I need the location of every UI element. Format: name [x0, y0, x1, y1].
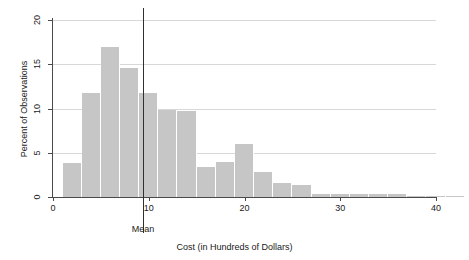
histogram-bar	[158, 110, 177, 197]
y-tick-mark	[48, 20, 52, 21]
mean-line	[143, 8, 144, 233]
histogram-bar	[292, 185, 311, 197]
x-axis-label: Cost (in Hundreds of Dollars)	[0, 242, 469, 252]
y-tick-mark	[48, 153, 52, 154]
gridline-y-20	[53, 20, 436, 21]
x-tick-label: 10	[144, 203, 154, 213]
histogram-bar	[82, 93, 101, 197]
x-tick-mark	[53, 197, 54, 201]
y-tick-label: 20	[32, 13, 42, 27]
histogram-bar	[216, 162, 235, 197]
histogram-bar	[197, 167, 216, 197]
x-tick-label: 0	[50, 203, 55, 213]
histogram-bar	[101, 47, 120, 197]
x-tick-label: 20	[239, 203, 249, 213]
y-tick-label: 10	[32, 102, 42, 116]
x-tick-label: 30	[335, 203, 345, 213]
histogram-bar	[388, 194, 407, 197]
histogram-bar	[446, 196, 465, 197]
histogram-bar	[177, 111, 196, 197]
y-axis-label: Percent of Observations	[19, 39, 29, 179]
histogram-bar	[273, 183, 292, 197]
x-tick-label: 40	[431, 203, 441, 213]
histogram-bar	[235, 144, 254, 197]
histogram-figure: Percent of Observations 05101520 0102030…	[0, 0, 469, 260]
histogram-bar	[312, 194, 331, 197]
y-tick-mark	[48, 197, 52, 198]
x-tick-mark	[436, 197, 437, 201]
histogram-bar	[120, 68, 139, 197]
mean-label: Mean	[132, 224, 155, 234]
y-tick-label: 5	[32, 146, 42, 160]
x-tick-mark	[340, 197, 341, 201]
histogram-bar	[369, 194, 388, 197]
y-tick-mark	[48, 109, 52, 110]
y-tick-mark	[48, 64, 52, 65]
x-tick-mark	[149, 197, 150, 201]
histogram-bar	[350, 194, 369, 197]
x-tick-mark	[245, 197, 246, 201]
y-tick-label: 15	[32, 57, 42, 71]
y-tick-label: 0	[32, 190, 42, 204]
histogram-bar	[63, 163, 82, 197]
histogram-bar	[254, 172, 273, 197]
histogram-bar	[407, 196, 426, 197]
plot-area	[53, 12, 436, 197]
